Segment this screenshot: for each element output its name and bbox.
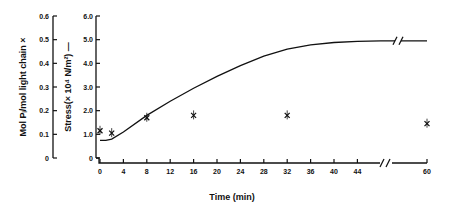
x-tick-label: 12 [166,168,174,175]
y-tick-label: 1.0 [83,131,93,138]
phosphorylation-y-axis: 00.10.20.30.40.50.6 [39,13,57,162]
chart: 00.10.20.30.40.50.6 01.02.03.04.05.06.0 … [0,0,452,209]
data-point-x-marker [109,128,114,137]
data-point-x-marker [98,126,103,135]
x-tick-label: 60 [423,168,431,175]
x-tick-label: 0 [98,168,102,175]
x-tick-label: 24 [237,168,245,175]
x-tick-label: 4 [121,168,125,175]
stress-y-axis: 01.02.03.04.05.06.0 [83,13,100,162]
stress-axis-label: Stress(× 10⁴ N/m²) — [63,42,73,132]
y-tick-label: 5.0 [83,36,93,43]
x-tick-label: 8 [145,168,149,175]
y-tick-label: 0 [89,155,93,162]
y-tick-label: 4.0 [83,60,93,67]
y-tick-label: 6.0 [83,13,93,20]
y-tick-label: 0.1 [39,131,49,138]
y-tick-label: 2.0 [83,107,93,114]
x-tick-label: 32 [283,168,291,175]
phosphorylation-axis-label: Mol Pᵢ/mol light chain × [18,37,28,136]
data-point-x-marker [425,119,430,128]
stress-curve [100,37,427,140]
data-point-x-marker [191,110,196,119]
y-tick-label: 0.2 [39,107,49,114]
y-tick-label: 0.3 [39,84,49,91]
x-tick-label: 44 [354,168,362,175]
x-tick-label: 40 [330,168,338,175]
x-axis-label: Time (min) [209,192,254,202]
data-point-x-marker [285,110,290,119]
y-tick-label: 0.6 [39,13,49,20]
time-x-axis: 04812162024283236404460 [96,158,431,175]
x-tick-label: 16 [190,168,198,175]
y-tick-label: 0.4 [39,60,49,67]
x-tick-label: 36 [307,168,315,175]
x-tick-label: 28 [260,168,268,175]
y-tick-label: 0.5 [39,36,49,43]
x-tick-label: 20 [213,168,221,175]
y-tick-label: 0 [45,155,49,162]
y-tick-label: 3.0 [83,84,93,91]
